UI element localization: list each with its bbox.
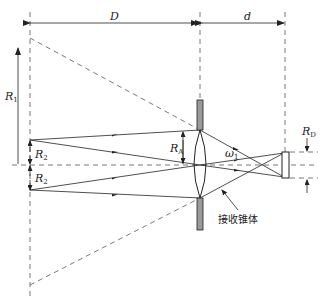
reference-lines bbox=[12, 12, 318, 300]
label-receiving-cone: 接收锥体 bbox=[218, 213, 258, 225]
fov-ray-top bbox=[30, 38, 200, 130]
label-d: d bbox=[244, 10, 251, 23]
label-R2-lower: R2 bbox=[34, 172, 48, 186]
light-rays bbox=[30, 130, 284, 198]
ray-1-after bbox=[200, 130, 284, 177]
ray-2-after bbox=[200, 153, 284, 165]
label-RA: RA bbox=[169, 142, 184, 156]
label-R2-upper: R2 bbox=[34, 148, 48, 162]
cone-leader-arrow bbox=[222, 190, 238, 210]
fov-ray-bottom bbox=[30, 198, 200, 285]
aperture-bottom bbox=[197, 198, 203, 230]
label-R1: R1 bbox=[4, 90, 18, 104]
label-RD: RD bbox=[301, 125, 316, 139]
detector bbox=[282, 152, 289, 178]
aperture-top bbox=[197, 100, 203, 130]
ray-4 bbox=[30, 190, 200, 198]
optical-receiver-diagram: D d R1 R2 R2 RA ω1 bbox=[0, 0, 327, 305]
label-D: D bbox=[109, 10, 119, 23]
